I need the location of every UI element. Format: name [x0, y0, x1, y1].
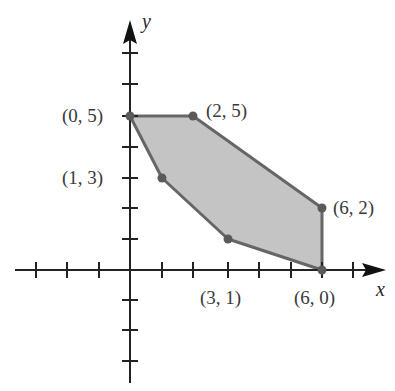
vertex-6-2	[318, 204, 327, 213]
feasible-region	[130, 116, 322, 270]
coordinate-plane: y x (0, 5) (2, 5) (6, 2) (6, 0) (3, 1) (…	[0, 0, 395, 391]
x-axis-label: x	[375, 278, 385, 300]
vertex-6-0	[318, 266, 327, 275]
label-1-3: (1, 3)	[62, 167, 103, 189]
vertex-0-5	[126, 112, 135, 121]
label-2-5: (2, 5)	[206, 100, 247, 122]
label-3-1: (3, 1)	[200, 287, 241, 309]
label-6-2: (6, 2)	[333, 197, 374, 219]
vertex-3-1	[224, 235, 233, 244]
label-0-5: (0, 5)	[62, 105, 103, 127]
label-6-0: (6, 0)	[294, 287, 335, 309]
vertex-2-5	[189, 112, 198, 121]
vertex-1-3	[158, 174, 167, 183]
y-axis-label: y	[140, 10, 151, 33]
